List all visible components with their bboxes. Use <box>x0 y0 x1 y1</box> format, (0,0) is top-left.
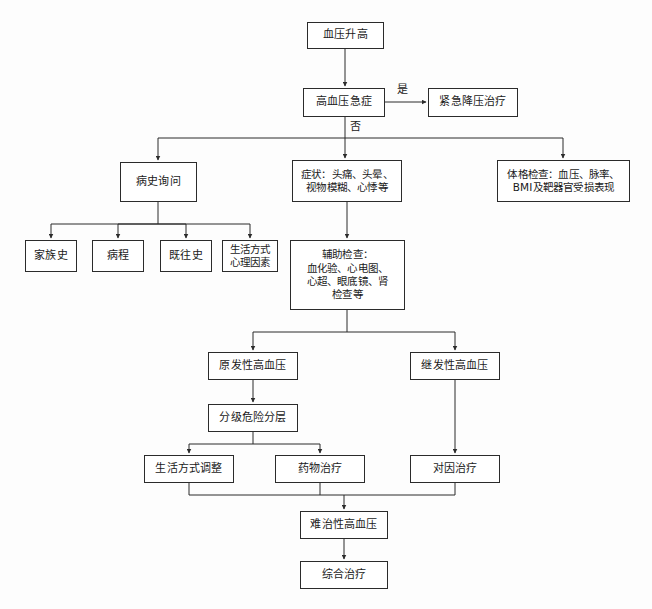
edge-no-to-history <box>158 117 345 160</box>
node-etiological-treatment[interactable]: 对因治疗 <box>410 455 500 483</box>
node-family-history[interactable]: 家族史 <box>25 240 77 272</box>
node-symptoms[interactable]: 症状：头痛、头晕、 视物模糊、心悸等 <box>292 160 402 202</box>
edge-label-yes: 是 <box>397 84 408 95</box>
node-auxiliary-exam[interactable]: 辅助检查： 血化验、心电图、 心超、眼底镜、肾 检查等 <box>290 240 405 310</box>
edge-no-to-physical <box>345 138 563 158</box>
edge-risk-to-lifestyle <box>189 432 253 453</box>
node-lifestyle-psych[interactable]: 生活方式 心理因素 <box>222 240 278 272</box>
flowchart-canvas: 血压升高 高血压急症 紧急降压治疗 是 否 病史询问 症状：头痛、头晕、 视物模… <box>0 0 652 609</box>
node-comprehensive-treatment[interactable]: 综合治疗 <box>300 561 388 589</box>
node-disease-course[interactable]: 病程 <box>92 240 144 272</box>
node-physical-exam[interactable]: 体格检查：血压、脉率、 BMI及靶器官受损表现 <box>497 160 630 202</box>
edge-history-to-course <box>118 224 158 238</box>
node-hypertensive-emergency[interactable]: 高血压急症 <box>303 88 385 117</box>
merge-rail-treatments <box>189 483 455 495</box>
node-bp-elevated[interactable]: 血压升高 <box>307 22 384 49</box>
node-primary-hypertension[interactable]: 原发性高血压 <box>208 352 298 380</box>
node-past-history[interactable]: 既往史 <box>160 240 212 272</box>
edge-auxiliary-to-primary <box>253 310 347 350</box>
edge-history-to-past <box>158 224 186 238</box>
node-resistant-hypertension[interactable]: 难治性高血压 <box>300 511 388 539</box>
edge-history-to-lifestyle <box>158 224 250 238</box>
edge-risk-to-drug <box>253 444 320 453</box>
edge-label-no: 否 <box>350 121 361 132</box>
node-lifestyle-adjustment[interactable]: 生活方式调整 <box>144 455 234 483</box>
node-secondary-hypertension[interactable]: 继发性高血压 <box>410 352 500 380</box>
node-drug-therapy[interactable]: 药物治疗 <box>275 455 365 483</box>
edge-history-to-family <box>51 202 158 238</box>
node-emergency-treatment[interactable]: 紧急降压治疗 <box>428 88 518 117</box>
node-risk-stratification[interactable]: 分级危险分层 <box>208 404 298 432</box>
node-history-inquiry[interactable]: 病史询问 <box>120 162 197 202</box>
edge-auxiliary-to-secondary <box>347 332 455 350</box>
